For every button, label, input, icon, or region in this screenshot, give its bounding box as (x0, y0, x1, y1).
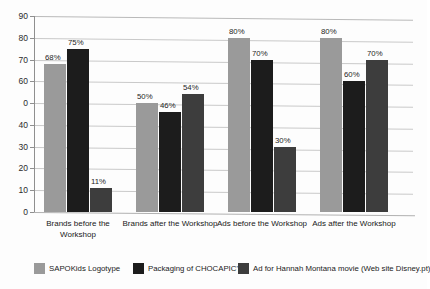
legend-label: Ad for Hannah Montana movie (Web site Di… (253, 265, 430, 273)
bar-value-label: 75% (68, 39, 84, 47)
legend-item: SAPOKids Logotype (34, 263, 120, 274)
bar-value-label: 80% (321, 28, 337, 36)
bar-value-label: 80% (229, 28, 245, 36)
bar (182, 94, 204, 212)
y-axis-tick-label: 20 (4, 164, 28, 173)
legend-color-swatch (133, 263, 144, 274)
bar (366, 60, 388, 212)
x-axis-category-label: Ads after the Workshop (306, 219, 402, 230)
y-axis-tick-label: 0 (4, 99, 28, 108)
bar-value-label: 50% (137, 93, 153, 101)
bar-group: 50%46%54% (136, 16, 204, 212)
legend-color-swatch (238, 263, 249, 274)
y-axis-tick-label: 80 (4, 34, 28, 43)
bar (44, 64, 66, 212)
legend-color-swatch (34, 263, 45, 274)
bar (251, 60, 273, 212)
bar-group: 80%70%30% (228, 16, 296, 212)
bar-value-label: 46% (160, 102, 176, 110)
bar (90, 188, 112, 212)
bar-value-label: 70% (367, 50, 383, 58)
bar-group: 80%60%70% (320, 16, 388, 212)
bar (159, 112, 181, 212)
bar (274, 147, 296, 212)
legend-item: Packaging of CHOCAPIC's (133, 263, 242, 274)
chart-legend: SAPOKids LogotypePackaging of CHOCAPIC's… (34, 263, 414, 281)
x-axis-line (34, 212, 415, 216)
x-axis-category-label: Ads before the Workshop (214, 219, 310, 230)
legend-item: Ad for Hannah Montana movie (Web site Di… (238, 263, 430, 274)
bar-value-label: 68% (45, 54, 61, 62)
bar-value-label: 30% (275, 137, 291, 145)
y-axis-labels: 908070600403020100 (0, 0, 28, 289)
y-axis-tick-label: 70 (4, 56, 28, 65)
bar (320, 38, 342, 212)
plot-area: 68%75%11%50%46%54%80%70%30%80%60%70% (34, 16, 413, 212)
bar (136, 103, 158, 212)
bar-value-label: 60% (344, 71, 360, 79)
bar (67, 49, 89, 212)
bar (228, 38, 250, 212)
y-axis-tick-label: 30 (4, 143, 28, 152)
bar-value-label: 54% (183, 84, 199, 92)
y-axis-tick-label: 40 (4, 121, 28, 130)
bar (343, 81, 365, 212)
bar-value-label: 11% (91, 178, 106, 186)
legend-label: SAPOKids Logotype (49, 265, 120, 273)
bar-group: 68%75%11% (44, 16, 112, 212)
legend-label: Packaging of CHOCAPIC's (148, 265, 242, 273)
x-axis-category-label: Brands after the Workshop (122, 219, 218, 230)
bar-value-label: 70% (252, 50, 268, 58)
y-axis-tick-label: 60 (4, 77, 28, 86)
y-axis-tick-label: 0 (4, 208, 28, 217)
y-axis-line (34, 16, 35, 213)
x-axis-category-label: Brands before the Workshop (30, 219, 126, 240)
y-axis-tick-label: 10 (4, 186, 28, 195)
y-axis-tick-label: 90 (4, 12, 28, 21)
